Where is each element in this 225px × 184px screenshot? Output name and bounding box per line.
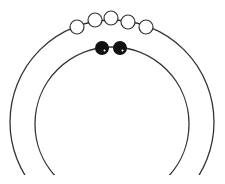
outer-bead-group [70,11,153,34]
open-bead-2 [88,13,102,27]
bead-highlight [104,50,106,52]
concentric-arcs-diagram [0,0,225,184]
inner-arc [35,47,189,184]
filled-bead-1 [95,41,109,55]
outer-arc [10,20,214,184]
open-bead-3 [104,11,118,25]
filled-bead-2 [113,41,127,55]
inner-bead-group [95,41,127,55]
bead-highlight [122,50,124,52]
open-bead-1 [70,20,84,34]
open-bead-4 [121,15,135,29]
open-bead-5 [139,20,153,34]
